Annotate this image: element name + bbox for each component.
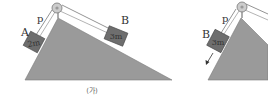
string-p-label: p bbox=[222, 13, 228, 24]
string-right bbox=[246, 4, 268, 14]
figure-right: 3m B p bbox=[202, 2, 268, 80]
string-right-edge bbox=[245, 10, 268, 20]
pulley-axle bbox=[240, 5, 243, 8]
block-b-label: B bbox=[121, 14, 129, 27]
block-b-mass: 3m bbox=[110, 32, 123, 41]
block-a-label: A bbox=[20, 26, 30, 39]
figure-caption: (가) bbox=[86, 86, 98, 95]
arrow-down-slope-icon bbox=[206, 53, 214, 65]
incline-wedge bbox=[25, 18, 172, 80]
figure-left: 2m A p 3m B (가) bbox=[20, 3, 172, 95]
pulley-axle bbox=[55, 6, 58, 9]
block-b-label: B bbox=[202, 28, 210, 41]
diagram-canvas: 2m A p 3m B (가) 3m B p bbox=[0, 0, 268, 102]
string-p-label: p bbox=[37, 13, 43, 24]
block-b-mass: 3m bbox=[212, 38, 225, 47]
